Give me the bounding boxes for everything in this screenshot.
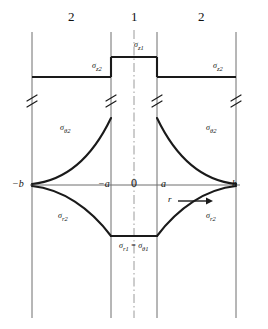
sigma-r2-left-curve [32, 186, 111, 236]
sigma-theta2-left-subscript: θ2 [64, 127, 70, 134]
axis-label-minus-b: −b [12, 179, 24, 189]
axis-label-b: b [232, 179, 237, 189]
r-axis-label: r [168, 195, 172, 204]
r-direction-arrow [178, 197, 213, 204]
sigma-r2-left-subscript: r2 [62, 215, 68, 222]
sigma-r2-right-subscript: r2 [210, 215, 216, 222]
sigma-z2-right-label: σz2 [213, 62, 223, 72]
sigma-r1-equals-theta1-label: σr1 = σθ1 [119, 242, 149, 252]
axis-label-a: a [161, 179, 166, 189]
sigma-z2-right-subscript: z2 [217, 65, 223, 72]
sigma-theta2-right-subscript: θ2 [210, 127, 216, 134]
sigma-z1-subscript: z1 [138, 44, 144, 51]
sigma-r2-right-label: σr2 [206, 212, 216, 222]
sigma-theta2-right-label: σθ2 [206, 124, 216, 134]
sigma-theta2-left-curve [32, 118, 111, 184]
region-label-right: 2 [198, 10, 205, 23]
figure-canvas: 2 1 2 σz1 σz2 σz2 σθ2 σθ2 σr2 σr2 σr1 = … [0, 0, 268, 329]
sigma-theta1-subscript: θ1 [142, 245, 148, 252]
sigma-z1-label: σz1 [134, 41, 144, 51]
sigma-z2-left-subscript: z2 [96, 65, 102, 72]
sigma-theta2-right-curve [157, 118, 236, 184]
sigma-theta2-left-label: σθ2 [60, 124, 70, 134]
region-label-left: 2 [68, 10, 75, 23]
sigma-z2-left-label: σz2 [92, 62, 102, 72]
axis-label-minus-a: −a [98, 179, 110, 189]
axis-label-zero: 0 [131, 177, 137, 189]
equals-sign: = [129, 241, 138, 250]
region-label-center: 1 [131, 10, 138, 23]
sigma-r2-left-label: σr2 [58, 212, 68, 222]
